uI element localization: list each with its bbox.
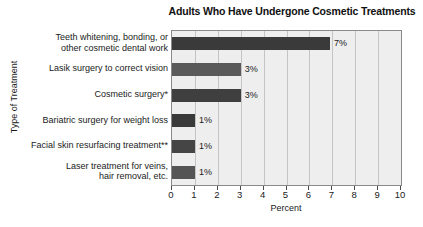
x-tick-label: 6 [306,189,311,200]
category-label: Laser treatment for veins, hair removal,… [24,161,168,182]
bar-value-label: 7% [334,37,347,50]
x-tick-label: 4 [260,189,265,200]
bar [172,37,330,50]
gridline [264,31,265,185]
chart-title: Adults Who Have Undergone Cosmetic Treat… [163,5,421,17]
y-axis-title: Type of Treatment [9,52,19,142]
bar [172,89,241,102]
gridline [218,31,219,185]
plot-area: 7%3%3%1%1%1% [171,30,402,186]
bar [172,140,195,153]
x-axis-tick-labels: 012345678910 [171,189,401,201]
category-label: Facial skin resurfacing treatment** [24,140,168,151]
x-tick-label: 8 [352,189,357,200]
bar-value-label: 1% [199,140,212,153]
bar-value-label: 1% [199,114,212,127]
x-tick-label: 10 [395,189,406,200]
bar [172,166,195,179]
x-tick-label: 0 [168,189,173,200]
gridline [287,31,288,185]
gridline [241,31,242,185]
category-label: Bariatric surgery for weight loss [24,115,168,126]
x-tick-label: 5 [283,189,288,200]
y-axis-category-labels: Teeth whitening, bonding, or other cosme… [24,30,168,184]
gridline [332,31,333,185]
gridline [309,31,310,185]
category-label: Teeth whitening, bonding, or other cosme… [24,32,168,53]
category-label: Cosmetic surgery* [24,89,168,100]
x-tick-label: 7 [329,189,334,200]
bar-chart: Adults Who Have Undergone Cosmetic Treat… [0,0,423,227]
gridline [378,31,379,185]
x-tick-label: 2 [214,189,219,200]
x-axis-title: Percent [171,203,401,213]
x-tick-label: 9 [374,189,379,200]
bar-value-label: 1% [199,166,212,179]
bar [172,63,241,76]
bar-value-label: 3% [245,63,258,76]
category-label: Lasik surgery to correct vision [24,63,168,74]
bar-value-label: 3% [245,89,258,102]
gridline [195,31,196,185]
gridline [355,31,356,185]
x-tick-label: 1 [191,189,196,200]
bar [172,114,195,127]
x-tick-label: 3 [237,189,242,200]
